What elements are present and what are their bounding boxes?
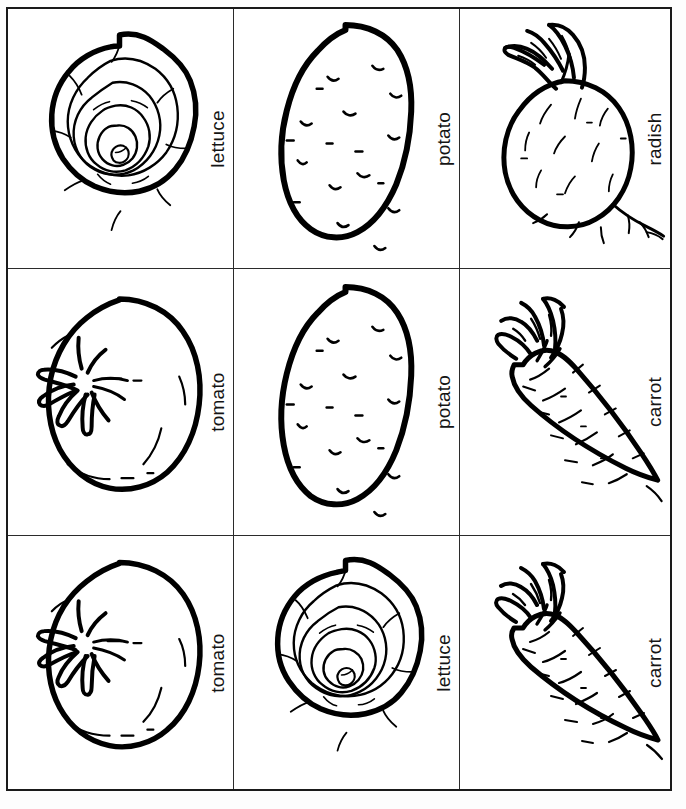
worksheet-page: lettuce [0, 0, 686, 809]
potato-illustration [234, 269, 459, 535]
card-cell[interactable]: lettuce [234, 536, 460, 789]
card-cell[interactable]: tomato [8, 536, 234, 789]
card-cell[interactable]: lettuce [8, 9, 234, 269]
card-grid: lettuce [6, 7, 672, 791]
card-cell[interactable]: tomato [8, 269, 234, 536]
lettuce-illustration [8, 9, 233, 268]
card-cell[interactable]: carrot [460, 536, 670, 789]
potato-illustration [234, 9, 459, 268]
tomato-illustration [8, 536, 233, 789]
radish-illustration [460, 9, 670, 268]
carrot-illustration [460, 536, 670, 789]
carrot-illustration [460, 269, 670, 535]
lettuce-illustration [234, 536, 459, 789]
card-cell[interactable]: potato [234, 9, 460, 269]
card-cell[interactable]: radish [460, 9, 670, 269]
tomato-illustration [8, 269, 233, 535]
card-cell[interactable]: potato [234, 269, 460, 536]
card-cell[interactable]: carrot [460, 269, 670, 536]
